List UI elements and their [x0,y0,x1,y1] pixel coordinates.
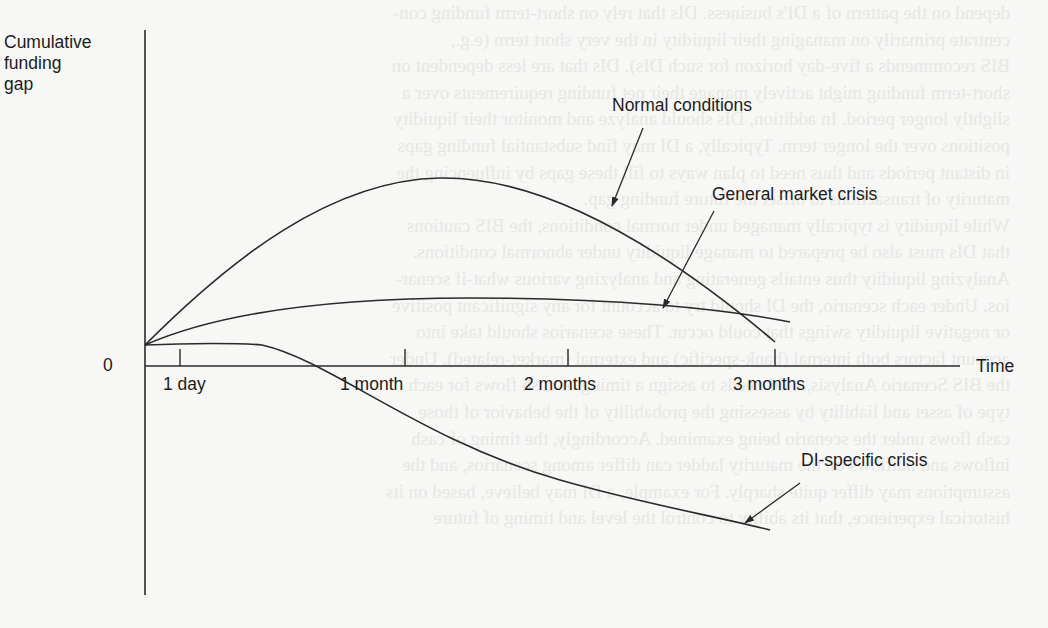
y-axis-label-line: Cumulative [4,32,92,53]
curve-normal-conditions [145,178,775,345]
arrow-general-market-crisis [663,211,714,308]
curve-general-market-crisis [145,298,790,345]
y-axis-label-line: funding [4,53,92,74]
tick-label-1-day: 1 day [163,376,206,394]
funding-gap-diagram [0,0,1048,628]
label-normal-conditions: Normal conditions [612,97,752,115]
scenario-curves [145,178,790,530]
origin-label: 0 [103,357,113,375]
label-general-market-crisis: General market crisis [712,186,877,204]
y-axis-label-line: gap [4,74,92,95]
y-axis-label: Cumulative funding gap [4,32,92,95]
tick-label-1-month: 1 month [340,376,403,394]
x-axis-ticks [180,349,775,366]
label-di-specific-crisis: DI-specific crisis [801,452,927,470]
arrow-normal-conditions [612,128,643,206]
curve-di-specific-crisis [145,344,770,531]
tick-label-3-months: 3 months [733,376,805,394]
tick-label-2-months: 2 months [524,376,596,394]
x-axis-label: Time [976,358,1014,376]
arrow-di-specific-crisis [745,483,800,523]
